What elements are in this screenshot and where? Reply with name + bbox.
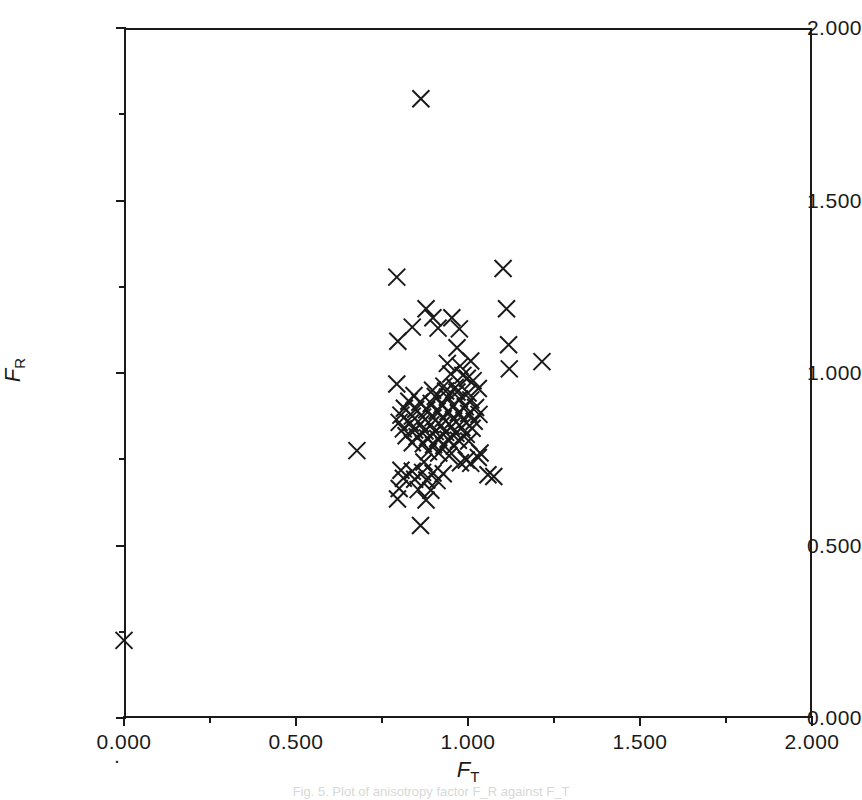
scatter-markers-layer xyxy=(124,28,812,718)
figure-caption: Fig. 5. Plot of anisotropy factor F_R ag… xyxy=(0,784,862,799)
scatter-point xyxy=(498,300,515,317)
scatter-point xyxy=(500,336,517,353)
y-tick-major xyxy=(116,545,126,547)
y-tick-minor xyxy=(119,286,126,288)
scatter-plot-figure: 0.0000.5001.0001.5002.000 0.0000.5001.00… xyxy=(0,0,862,800)
scatter-point xyxy=(479,466,496,483)
x-tick-minor xyxy=(209,716,211,723)
scatter-point xyxy=(388,269,405,286)
y-axis-title-symbol: F xyxy=(0,369,25,382)
x-tick-major xyxy=(123,716,125,726)
x-tick-minor xyxy=(553,716,555,723)
scatter-point xyxy=(451,320,468,337)
x-tick-label: 0.000 xyxy=(96,730,151,754)
y-axis-title: FR xyxy=(0,358,28,382)
scatter-point xyxy=(348,442,365,459)
y-tick-label: 0.000 xyxy=(758,706,862,730)
y-tick-minor xyxy=(119,113,126,115)
y-tick-major xyxy=(116,200,126,202)
y-tick-minor xyxy=(119,631,126,633)
x-tick-label: 0.500 xyxy=(268,730,323,754)
x-axis-title-symbol: F xyxy=(457,757,470,782)
y-tick-minor xyxy=(119,458,126,460)
x-tick-label: 2.000 xyxy=(784,730,839,754)
scatter-point xyxy=(388,376,405,393)
x-tick-major xyxy=(639,716,641,726)
scatter-point xyxy=(116,632,133,649)
scatter-point xyxy=(389,490,406,507)
scatter-point xyxy=(462,455,479,472)
scatter-point xyxy=(533,353,550,370)
y-tick-major xyxy=(116,372,126,374)
scatter-point xyxy=(501,360,518,377)
scatter-point xyxy=(412,90,429,107)
y-tick-label: 0.500 xyxy=(758,534,862,558)
x-tick-label: 1.500 xyxy=(612,730,667,754)
origin-dot-marker: . xyxy=(114,745,120,766)
x-tick-label: 1.000 xyxy=(440,730,495,754)
scatter-point xyxy=(495,260,512,277)
scatter-point xyxy=(412,517,429,534)
scatter-point xyxy=(418,300,435,317)
x-tick-major xyxy=(295,716,297,726)
y-tick-label: 2.000 xyxy=(758,16,862,40)
x-tick-minor xyxy=(725,716,727,723)
y-tick-major xyxy=(116,27,126,29)
scatter-point xyxy=(443,309,460,326)
x-axis-title: FT xyxy=(457,757,480,785)
x-axis-title-subscript: T xyxy=(470,768,479,785)
y-axis-title-subscript: R xyxy=(11,358,28,369)
y-tick-label: 1.500 xyxy=(758,189,862,213)
x-tick-major xyxy=(467,716,469,726)
scatter-point xyxy=(485,468,502,485)
x-tick-minor xyxy=(381,716,383,723)
scatter-point xyxy=(389,333,406,350)
y-tick-label: 1.000 xyxy=(758,361,862,385)
